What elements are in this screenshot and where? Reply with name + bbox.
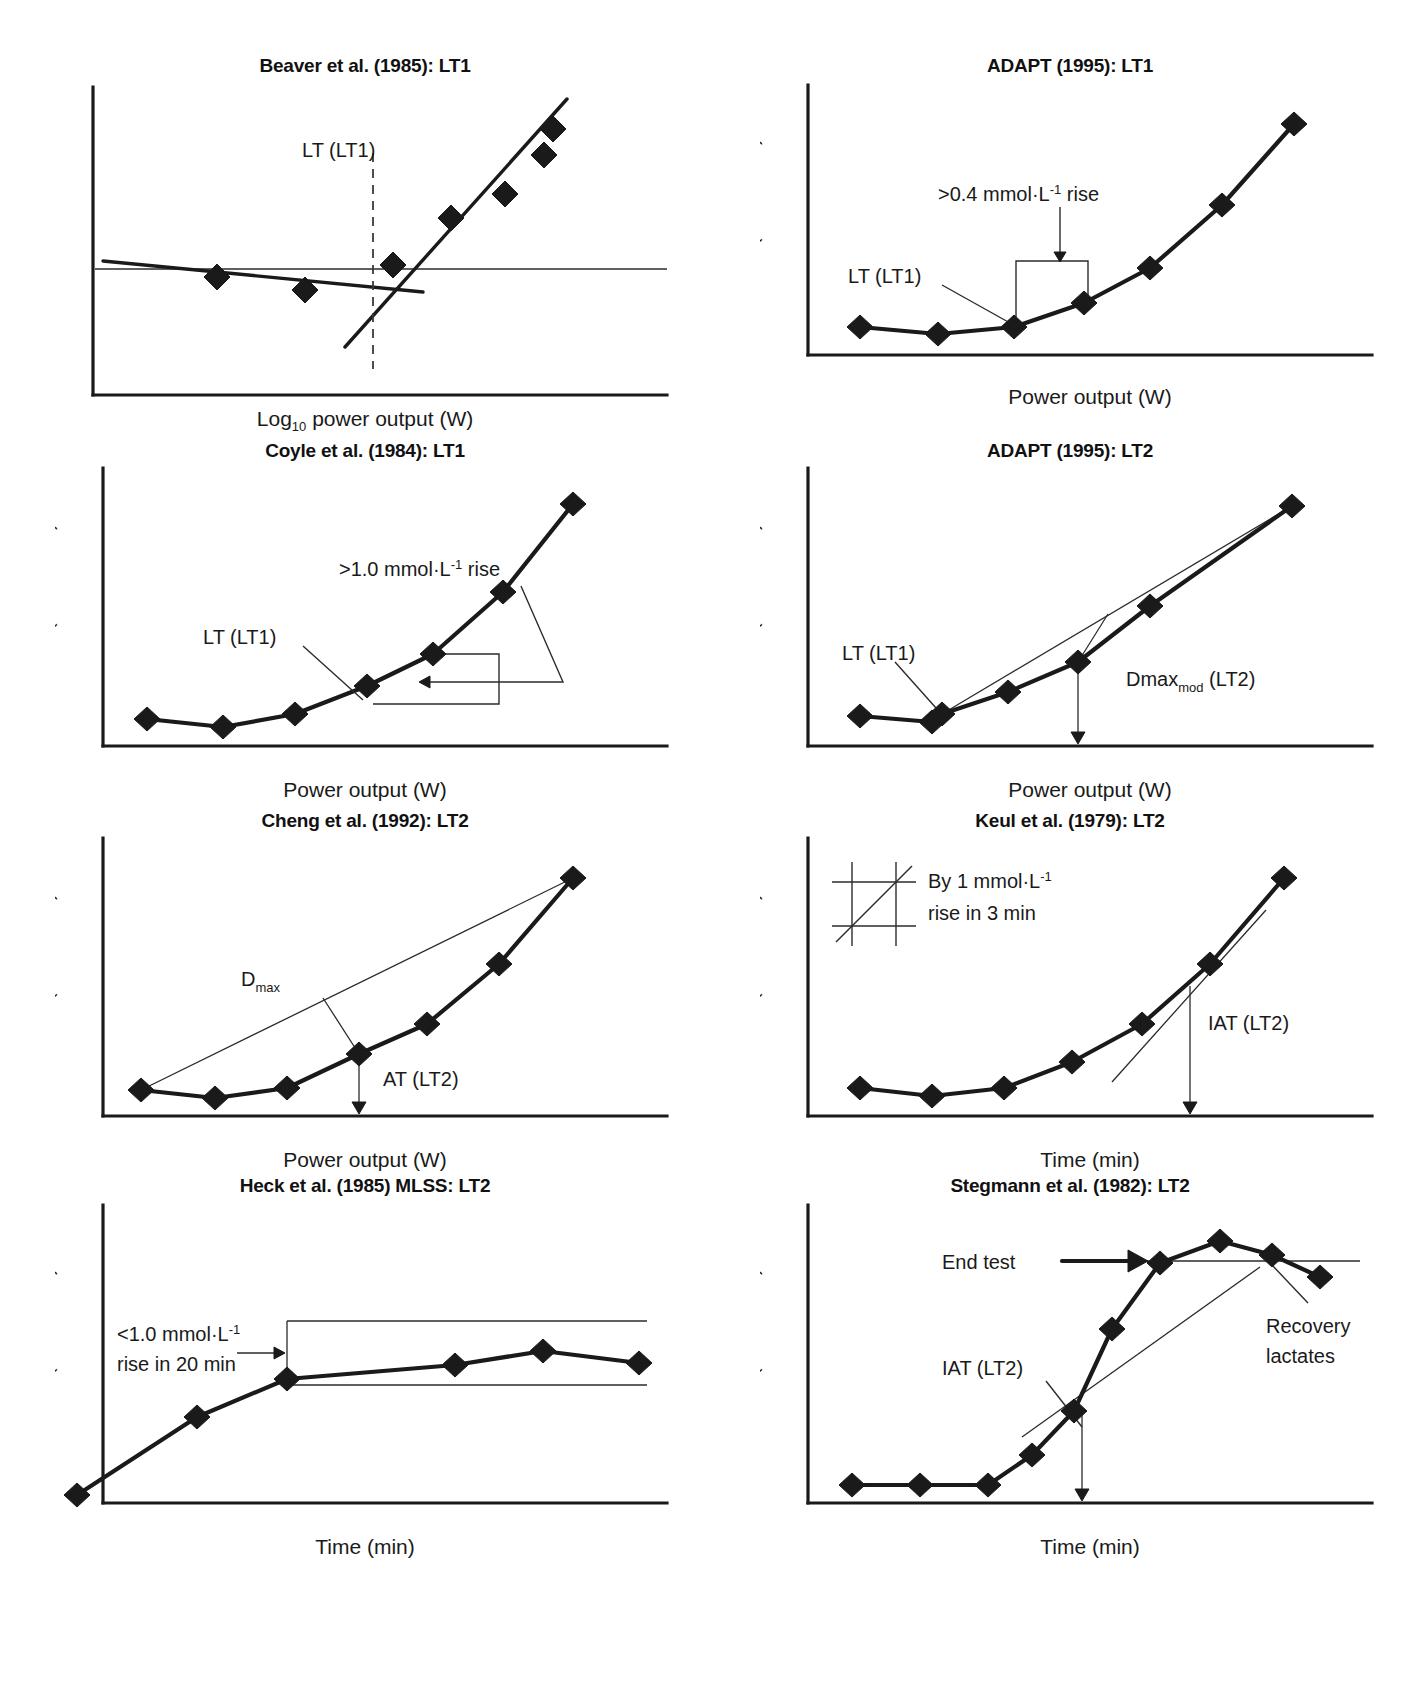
y-axis-label: Lactate (mmol · L-1) xyxy=(55,523,57,705)
y-axis-label: Lactate (mmol · L-1) xyxy=(55,893,57,1075)
x-axis-label-cheng: Power output (W) xyxy=(55,1148,675,1172)
annotation-rise-10: >1.0 mmol·L-1 rise xyxy=(339,557,500,580)
y-axis-label: Lactate (mmol · L-1) xyxy=(760,523,762,705)
chart-heck-1985-mlss-lt2: <1.0 mmol·L-1 rise in 20 min Lactate (mm… xyxy=(55,1199,675,1529)
panel-title-coyle: Coyle et al. (1984): LT1 xyxy=(55,440,675,462)
chart-coyle-1984-lt1: >1.0 mmol·L-1 rise LT (LT1) Lactate (mmo… xyxy=(55,464,675,774)
annotation-iat-lt2: IAT (LT2) xyxy=(942,1357,1023,1379)
chart-adapt-1995-lt1: >0.4 mmol·L-1 rise LT (LT1) Lactate (mmo… xyxy=(760,79,1380,379)
chart-keul-1979-lt2: By 1 mmol·L-1 rise in 3 min IAT (LT2) La… xyxy=(760,834,1380,1144)
at-drop-arrow xyxy=(352,1102,366,1114)
panel-coyle-1984-lt1: Coyle et al. (1984): LT1 >1.0 mmol·L-1 r… xyxy=(55,440,675,780)
figure-container: Beaver et al. (1985): LT1 LT xyxy=(0,0,1427,1702)
annotation-lt-lt1: LT (LT1) xyxy=(848,265,921,287)
annotation-at-lt2: AT (LT2) xyxy=(383,1068,459,1090)
annotation-iat-lt2: IAT (LT2) xyxy=(1208,1012,1289,1034)
lt-leader-line xyxy=(942,285,1010,323)
slope-legend-inset xyxy=(832,862,916,946)
data-markers xyxy=(847,112,1307,346)
annotation-slope-line2: rise in 3 min xyxy=(928,902,1036,924)
dmax-perpendicular xyxy=(323,998,359,1054)
iat-drop-arrow xyxy=(1075,1489,1089,1501)
annotation-dmax-mod: Dmaxmod (LT2) xyxy=(1126,668,1255,695)
annotation-recovery-line2: lactates xyxy=(1266,1345,1335,1367)
data-markers xyxy=(839,1229,1333,1497)
x-axis-label-adapt-lt1: Power output (W) xyxy=(780,385,1400,409)
iat-drop-arrow xyxy=(1183,1102,1197,1114)
panel-title-beaver: Beaver et al. (1985): LT1 xyxy=(55,55,675,77)
x-axis-label-coyle: Power output (W) xyxy=(55,778,675,802)
chart-adapt-1995-lt2: LT (LT1) Dmaxmod (LT2) Lactate (mmol · L… xyxy=(760,464,1380,774)
annotation-dmax: Dmax xyxy=(241,968,281,995)
lactate-curve xyxy=(147,504,573,727)
lower-slope-line xyxy=(103,261,423,292)
y-axis-label: Lactate (mmol · L-1) xyxy=(760,893,762,1075)
annotation-rise-line1: <1.0 mmol·L-1 xyxy=(117,1322,240,1345)
annotation-rise-line2: rise in 20 min xyxy=(117,1353,236,1375)
panel-heck-1985-mlss-lt2: Heck et al. (1985) MLSS: LT2 <1.0 mmol·L… xyxy=(55,1175,675,1525)
x-axis-label-beaver: Log10 power output (W) xyxy=(55,407,675,434)
end-test-arrow-head xyxy=(1128,1250,1148,1272)
x-axis-label-stegmann: Time (min) xyxy=(780,1535,1400,1559)
panel-title-adapt-lt1: ADAPT (1995): LT1 xyxy=(760,55,1380,77)
rise-arrow-head xyxy=(419,676,430,688)
panel-beaver-1985-lt1: Beaver et al. (1985): LT1 LT xyxy=(55,55,675,395)
panel-stegmann-1982-lt2: Stegmann et al. (1982): LT2 xyxy=(760,1175,1380,1525)
annotation-lt-lt1: LT (LT1) xyxy=(203,626,276,648)
data-markers xyxy=(847,866,1297,1108)
panel-title-heck: Heck et al. (1985) MLSS: LT2 xyxy=(55,1175,675,1197)
data-markers xyxy=(847,494,1305,734)
annotation-recovery-line1: Recovery xyxy=(1266,1315,1350,1337)
annotation-end-test: End test xyxy=(942,1251,1016,1273)
panel-title-cheng: Cheng et al. (1992): LT2 xyxy=(55,810,675,832)
chart-stegmann-1982-lt2: End test Recovery lactates IAT (LT2) Lac… xyxy=(760,1199,1380,1529)
dmax-drop-arrow xyxy=(1071,732,1085,744)
annotation-rise-04: >0.4 mmol·L-1 rise xyxy=(938,182,1099,205)
x-axis-label-keul: Time (min) xyxy=(780,1148,1400,1172)
panel-adapt-1995-lt2: ADAPT (1995): LT2 LT (LT1) xyxy=(760,440,1380,780)
y-axis-label: Lactate (mmol · L-1) xyxy=(760,1268,762,1450)
chart-beaver-1985-lt1: LT (LT1) Log10 V̇O2 (L·min-1) xyxy=(55,79,675,399)
lt-leader-line xyxy=(895,662,936,708)
panel-title-stegmann: Stegmann et al. (1982): LT2 xyxy=(760,1175,1380,1197)
data-markers xyxy=(134,492,586,739)
data-markers xyxy=(128,866,586,1110)
chart-cheng-1992-lt2: Dmax AT (LT2) Lactate (mmol · L-1) xyxy=(55,834,675,1144)
tangent-line xyxy=(1112,910,1266,1082)
lt-leader-line xyxy=(303,646,363,700)
figure-caption xyxy=(55,1684,1385,1700)
lactate-curve xyxy=(141,878,573,1098)
band-arrow-head xyxy=(274,1347,285,1359)
x-axis-label-adapt-lt2: Power output (W) xyxy=(780,778,1400,802)
panel-cheng-1992-lt2: Cheng et al. (1992): LT2 Dmax AT (LT xyxy=(55,810,675,1150)
annotation-slope-line1: By 1 mmol·L-1 xyxy=(928,869,1052,892)
annotation-lt-lt1: LT (LT1) xyxy=(842,642,915,664)
panel-adapt-1995-lt1: ADAPT (1995): LT1 >0.4 mmol·L-1 rise xyxy=(760,55,1380,395)
panel-title-keul: Keul et al. (1979): LT2 xyxy=(760,810,1380,832)
panel-title-adapt-lt2: ADAPT (1995): LT2 xyxy=(760,440,1380,462)
y-axis-label: Lactate (mmol · L-1) xyxy=(760,138,762,320)
x-axis-label-heck: Time (min) xyxy=(55,1535,675,1559)
y-axis-label: Lactate (mmol · L-1) xyxy=(55,1268,57,1450)
annotation-lt-lt1: LT (LT1) xyxy=(302,139,375,161)
panel-keul-1979-lt2: Keul et al. (1979): LT2 xyxy=(760,810,1380,1150)
lactate-curve xyxy=(852,1241,1320,1485)
